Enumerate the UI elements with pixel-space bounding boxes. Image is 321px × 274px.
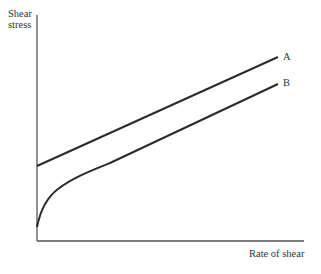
x-axis-label: Rate of shear <box>249 248 304 259</box>
y-axis-label-line2: stress <box>8 19 32 30</box>
y-axis-label-line1: Shear <box>8 8 32 19</box>
curve-b <box>37 84 278 227</box>
rheology-diagram <box>0 0 321 274</box>
series-b-label: B <box>283 77 290 88</box>
y-axis-label: Shear stress <box>8 8 32 30</box>
series-a-label: A <box>283 51 291 62</box>
line-a <box>37 57 278 166</box>
